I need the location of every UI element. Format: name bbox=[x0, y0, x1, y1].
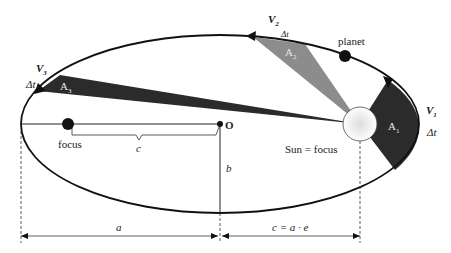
planet-label: planet bbox=[338, 35, 365, 47]
dt3-label: Δt bbox=[25, 78, 36, 90]
c-brace bbox=[72, 127, 219, 140]
focus-dot bbox=[62, 118, 74, 130]
v3-label: V3 bbox=[36, 62, 47, 77]
arrow-a-right-icon bbox=[211, 233, 218, 239]
sun-label: Sun = focus bbox=[285, 143, 338, 155]
b-label: b bbox=[226, 162, 232, 174]
v1-label: V1 bbox=[426, 104, 437, 119]
focus-label: focus bbox=[58, 138, 82, 150]
v2-label: V2 bbox=[268, 13, 279, 28]
dt2-label: Δt bbox=[280, 29, 289, 39]
center-dot bbox=[217, 121, 223, 127]
arrow-a-left-icon bbox=[21, 233, 28, 239]
c-label: c bbox=[136, 142, 141, 154]
c-eq-label: c = a · e bbox=[272, 221, 309, 233]
arrow-c-left-icon bbox=[222, 233, 229, 239]
kepler-diagram: V3 Δt A3 V2 Δt A2 planet V1 Δt A1 Sun = … bbox=[0, 0, 451, 253]
a-label: a bbox=[116, 221, 122, 233]
center-label: O bbox=[225, 119, 234, 131]
arrow-c-right-icon bbox=[353, 233, 360, 239]
v2-arrow-icon bbox=[246, 31, 256, 41]
sun-icon bbox=[343, 107, 377, 141]
planet-icon bbox=[339, 50, 351, 62]
dt1-label: Δt bbox=[426, 126, 437, 138]
